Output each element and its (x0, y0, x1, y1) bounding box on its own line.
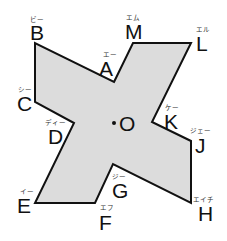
vertex-label-H: H (198, 202, 213, 225)
vertex-label-K: K (164, 110, 178, 133)
vertex-label-J: J (195, 134, 206, 157)
vertex-label-F: F (99, 211, 112, 234)
center-point (112, 121, 116, 125)
vertex-label-M: M (125, 20, 143, 43)
vertex-label-D: D (48, 125, 63, 148)
diagram-canvas: O ビー B エー A エム M エル L シー C ディー D ケー K ジェ… (0, 0, 227, 241)
vertex-label-C: C (17, 92, 32, 115)
center-label: O (119, 112, 135, 135)
vertex-label-G: G (112, 179, 128, 202)
vertex-label-E: E (17, 194, 31, 217)
vertex-label-B: B (30, 21, 44, 44)
vertex-label-L: L (196, 32, 208, 55)
vertex-label-A: A (99, 57, 113, 80)
